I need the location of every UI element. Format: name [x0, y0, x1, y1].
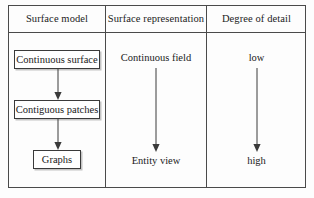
node-continuous-surface: Continuous surface — [14, 50, 100, 69]
column-header-surface-representation: Surface representation — [106, 5, 206, 32]
header-row-divider — [8, 32, 306, 33]
arrow-low-to-high — [249, 68, 265, 153]
node-contiguous-patches-label: Contiguous patches — [15, 101, 99, 118]
column-header-degree-of-detail: Degree of detail — [207, 5, 306, 32]
node-entity-view: Entity view — [106, 155, 206, 166]
node-low: low — [207, 52, 306, 63]
node-graphs-label: Graphs — [34, 151, 80, 168]
node-high: high — [207, 155, 306, 166]
diagram-root: Surface model Surface representation Deg… — [0, 0, 314, 198]
node-contiguous-patches: Contiguous patches — [14, 100, 100, 119]
arrow-contiguous-patches-to-graphs — [50, 119, 66, 151]
node-graphs: Graphs — [33, 150, 81, 169]
arrow-continuous-surface-to-contiguous-patches — [50, 69, 66, 101]
node-continuous-surface-label: Continuous surface — [15, 51, 99, 68]
node-continuous-field: Continuous field — [106, 52, 206, 63]
column-header-surface-model: Surface model — [9, 5, 105, 32]
arrow-continuous-field-to-entity-view — [148, 68, 164, 153]
